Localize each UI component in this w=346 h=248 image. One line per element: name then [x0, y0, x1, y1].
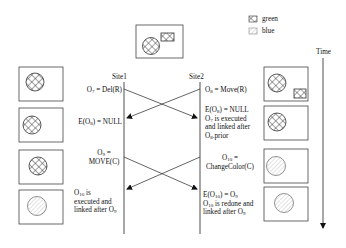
site1-state-2: [19, 108, 63, 142]
site2-o8-label: O8 = Move(R): [205, 86, 247, 95]
site2-state-4: [264, 187, 308, 221]
site2-o10-label: O10 = ChangeColor(C): [203, 154, 257, 171]
msg-o7-to-site2: [124, 89, 197, 118]
site1-state-1: [19, 67, 63, 101]
legend-label-blue: blue: [262, 27, 274, 36]
site2-e-o10-label: E(O10) = O9 O10 is redone and linked aft…: [203, 191, 253, 217]
site1-state-3: [19, 150, 63, 184]
site2-label: Site2: [189, 73, 204, 82]
msg-o10-to-site1: [127, 157, 200, 189]
msg-o9-to-site2: [124, 157, 197, 189]
site2-state-1: [264, 67, 308, 101]
rect-green: [161, 33, 174, 41]
site1-e-o8-label: E(O8) = NULL: [78, 118, 122, 127]
circle-green: [143, 38, 160, 55]
site1-state-4: [19, 190, 63, 224]
site1-o7-label: O7 = Del(R): [87, 86, 122, 95]
site1-o9-label: O9 = MOVE(C): [84, 149, 124, 166]
site2-state-2: [264, 106, 308, 140]
site2-e-o8-label: E(O8) = NULL O7 is executed and linked a…: [205, 106, 250, 140]
legend-swatch-green: [249, 16, 257, 22]
msg-o8-to-site1: [127, 89, 200, 118]
site2-state-3: [264, 149, 308, 183]
legend: [249, 16, 257, 34]
site1-o10-label: O10 is executed and linked after O9: [74, 189, 116, 215]
time-axis-label: Time: [316, 48, 331, 57]
legend-label-green: green: [262, 15, 278, 24]
initial-state-box: [136, 25, 183, 58]
site1-label: Site1: [112, 73, 127, 82]
diagram-canvas: [0, 0, 346, 248]
legend-swatch-blue: [249, 28, 257, 34]
